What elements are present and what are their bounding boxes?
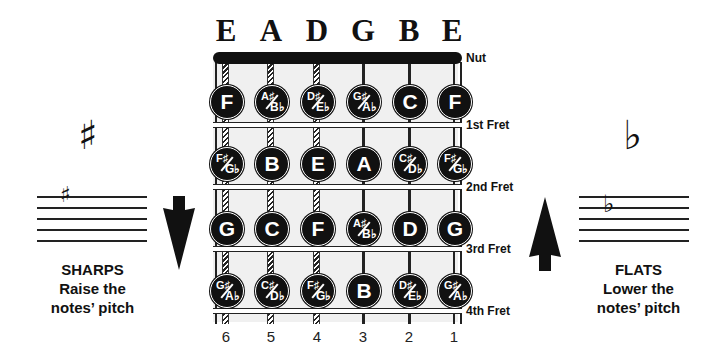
note-marker: C <box>393 85 427 119</box>
note-flat-label: D♭ <box>408 162 423 176</box>
note-label: B <box>264 152 279 176</box>
note-label: A <box>356 152 371 176</box>
note-flat-label: A♭ <box>362 100 377 114</box>
string-name-1: E <box>437 14 467 48</box>
note-label: C <box>264 217 279 241</box>
sharps-caption: SHARPS Raise the notes’ pitch <box>30 260 155 317</box>
note-marker: F <box>210 85 244 119</box>
sharps-line2: notes’ pitch <box>30 298 155 317</box>
note-marker: F <box>301 212 335 246</box>
note-label: F <box>312 217 325 241</box>
string-name-4: D <box>302 14 332 48</box>
note-marker: F <box>438 85 472 119</box>
string-number-5: 5 <box>261 328 281 345</box>
note-marker: C <box>255 212 289 246</box>
note-flat-label: G♭ <box>225 162 240 176</box>
note-marker: D♯E♭ <box>393 274 427 308</box>
string-number-6: 6 <box>216 328 236 345</box>
string-name-5: A <box>256 14 286 48</box>
note-flat-label: A♭ <box>225 289 240 303</box>
nut <box>213 52 462 64</box>
note-flat-label: G♭ <box>453 162 468 176</box>
note-label: G <box>447 217 463 241</box>
note-label: F <box>449 90 462 114</box>
arrow-down-icon <box>163 196 195 270</box>
note-flat-label: E♭ <box>408 289 422 303</box>
note-flat-label: D♭ <box>270 289 285 303</box>
note-label: E <box>311 152 325 176</box>
note-marker: A <box>347 147 381 181</box>
note-marker: C♯D♭ <box>255 274 289 308</box>
sharps-line1: Raise the <box>30 279 155 298</box>
note-label: D <box>402 217 417 241</box>
fret-label-3: 3rd Fret <box>466 242 511 256</box>
note-flat-label: E♭ <box>316 100 330 114</box>
note-marker: F♯G♭ <box>301 274 335 308</box>
string-number-4: 4 <box>307 328 327 345</box>
flats-caption: FLATS Lower the notes’ pitch <box>576 260 701 317</box>
fret-label-2: 2nd Fret <box>466 180 513 194</box>
note-label: C <box>402 90 417 114</box>
sharps-staff: ♯ <box>37 196 147 246</box>
note-label: F <box>221 90 234 114</box>
fret-3 <box>213 246 462 252</box>
flats-line2: notes’ pitch <box>576 298 701 317</box>
flats-staff: ♭ <box>579 196 689 246</box>
arrow-up-icon <box>529 197 561 271</box>
nut-label: Nut <box>466 51 486 65</box>
flats-title: FLATS <box>576 260 701 279</box>
staff-sharp-icon: ♯ <box>60 182 71 207</box>
note-label: B <box>356 279 371 303</box>
note-marker: G <box>210 212 244 246</box>
string-number-1: 1 <box>444 328 464 345</box>
note-marker: G♯A♭ <box>347 85 381 119</box>
note-marker: A♯B♭ <box>255 85 289 119</box>
note-marker: C♯D♭ <box>393 147 427 181</box>
note-marker: F♯G♭ <box>210 147 244 181</box>
fret-label-1: 1st Fret <box>466 118 509 132</box>
note-marker: B <box>347 274 381 308</box>
note-label: G <box>219 217 235 241</box>
flat-icon: ♭ <box>623 112 642 158</box>
sharp-icon: ♯ <box>78 112 97 158</box>
string-name-3: G <box>348 14 378 48</box>
note-marker: B <box>255 147 289 181</box>
sharps-title: SHARPS <box>30 260 155 279</box>
string-name-2: B <box>394 14 424 48</box>
note-marker: G♯A♭ <box>438 274 472 308</box>
note-flat-label: B♭ <box>362 227 377 241</box>
string-name-6: E <box>211 14 241 48</box>
note-flat-label: A♭ <box>453 289 468 303</box>
note-marker: G♯A♭ <box>210 274 244 308</box>
note-marker: G <box>438 212 472 246</box>
note-flat-label: G♭ <box>316 289 331 303</box>
note-marker: F♯G♭ <box>438 147 472 181</box>
string-number-3: 3 <box>353 328 373 345</box>
note-marker: A♯B♭ <box>347 212 381 246</box>
fret-2 <box>213 184 462 190</box>
staff-flat-icon: ♭ <box>603 190 614 218</box>
note-marker: D♯E♭ <box>301 85 335 119</box>
string-number-2: 2 <box>399 328 419 345</box>
note-marker: E <box>301 147 335 181</box>
note-marker: D <box>393 212 427 246</box>
fret-1 <box>213 122 462 128</box>
fret-4 <box>213 308 462 314</box>
fret-label-4: 4th Fret <box>466 304 510 318</box>
note-flat-label: B♭ <box>270 100 285 114</box>
flats-line1: Lower the <box>576 279 701 298</box>
